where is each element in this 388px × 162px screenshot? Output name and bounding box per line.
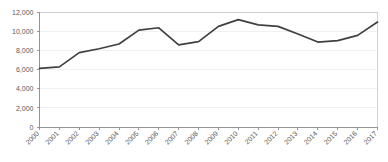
line-chart: 02,0004,0006,0008,00010,00012,000 200020… — [0, 0, 388, 162]
x-tick-label: 2007 — [163, 130, 179, 146]
x-tick-label: 2002 — [64, 130, 80, 146]
x-tick-label: 2013 — [283, 130, 299, 146]
data-series-line — [40, 20, 378, 69]
chart-canvas: 02,0004,0006,0008,00010,00012,000 200020… — [0, 0, 388, 162]
x-tick-label: 2000 — [24, 130, 40, 146]
y-tick-label: 0 — [30, 124, 34, 131]
x-tick-label: 2014 — [303, 130, 319, 146]
gridlines-group — [40, 13, 378, 108]
y-tick-label: 10,000 — [12, 28, 34, 35]
y-tick-label: 2,000 — [16, 105, 34, 112]
y-axis-ticks-group: 02,0004,0006,0008,00010,00012,000 — [12, 9, 39, 131]
x-tick-label: 2016 — [342, 130, 358, 146]
x-tick-label: 2009 — [203, 130, 219, 146]
x-tick-label: 2010 — [223, 130, 239, 146]
y-tick-label: 4,000 — [16, 85, 34, 92]
x-axis-ticks-group: 2000200120022003200420052006200720082009… — [24, 127, 378, 146]
x-tick-label: 2006 — [144, 130, 160, 146]
x-tick-label: 2017 — [362, 130, 378, 146]
y-tick-label: 6,000 — [16, 66, 34, 73]
x-tick-label: 2012 — [263, 130, 279, 146]
y-tick-label: 12,000 — [12, 9, 34, 16]
x-tick-label: 2005 — [124, 130, 140, 146]
x-tick-label: 2003 — [84, 130, 100, 146]
y-tick-label: 8,000 — [16, 47, 34, 54]
x-tick-label: 2004 — [104, 130, 120, 146]
x-tick-label: 2015 — [322, 130, 338, 146]
x-tick-label: 2011 — [243, 130, 259, 146]
x-tick-label: 2001 — [44, 130, 60, 146]
x-tick-label: 2008 — [183, 130, 199, 146]
